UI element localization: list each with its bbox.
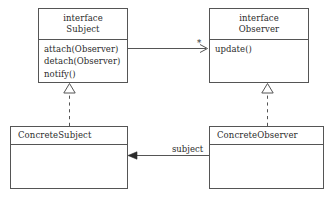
- member-item: notify(): [44, 68, 127, 80]
- class-box-concrete-observer[interactable]: ConcreteObserver: [209, 126, 324, 189]
- member-item: detach(Observer): [44, 55, 127, 67]
- class-header-subject: interface Subject: [39, 9, 127, 40]
- stereotype-label: interface: [239, 13, 279, 24]
- realization-concretesubject-subject: [64, 84, 75, 127]
- role-label-subject: subject: [172, 144, 203, 154]
- class-box-observer[interactable]: interface Observer update(): [209, 8, 309, 83]
- member-item: attach(Observer): [44, 43, 127, 55]
- class-name-label: ConcreteObserver: [217, 130, 298, 141]
- class-name-label: ConcreteSubject: [18, 130, 91, 141]
- stereotype-label: interface: [63, 13, 103, 24]
- class-header-observer: interface Observer: [210, 9, 308, 40]
- class-box-subject[interactable]: interface Subject attach(Observer) detac…: [38, 8, 128, 83]
- member-item: update(): [215, 43, 308, 55]
- class-box-concrete-subject[interactable]: ConcreteSubject: [10, 126, 128, 189]
- class-members-concrete-observer: [210, 145, 323, 148]
- filled-arrowhead-icon: [128, 152, 137, 159]
- hollow-triangle-icon: [262, 84, 273, 94]
- class-name-label: Observer: [239, 24, 280, 35]
- hollow-triangle-icon: [64, 84, 75, 94]
- class-members-concrete-subject: [11, 145, 127, 148]
- class-name-label: Subject: [66, 24, 99, 35]
- class-members-observer: update(): [210, 40, 308, 55]
- association-subject-observer: [128, 45, 208, 53]
- uml-class-diagram: interface Subject attach(Observer) detac…: [0, 0, 334, 201]
- multiplicity-label-observer: *: [197, 38, 201, 48]
- class-members-subject: attach(Observer) detach(Observer) notify…: [39, 40, 127, 80]
- realization-concreteobserver-observer: [262, 84, 273, 127]
- class-header-concrete-subject: ConcreteSubject: [11, 127, 127, 145]
- class-header-concrete-observer: ConcreteObserver: [210, 127, 323, 145]
